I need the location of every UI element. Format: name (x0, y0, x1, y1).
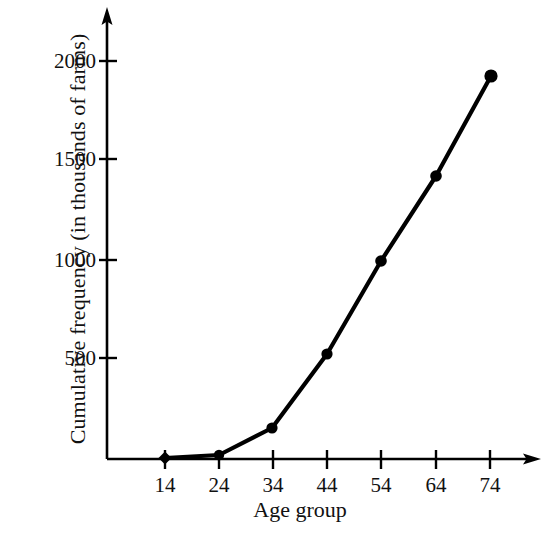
data-line-series-cumulative-frequency (165, 76, 491, 458)
data-point-14 (159, 452, 172, 465)
x-tick-label-24: 24 (194, 473, 244, 498)
y-axis-title: Cumulative frequency (in thousands of fa… (65, 9, 91, 469)
x-tick-label-64: 64 (411, 473, 461, 498)
data-point-64 (430, 170, 442, 182)
x-axis-title: Age group (150, 497, 450, 523)
x-tick-label-14: 14 (140, 473, 190, 498)
data-point-44 (321, 348, 332, 359)
x-tick-label-34: 34 (248, 473, 298, 498)
data-point-24 (214, 450, 224, 460)
x-tick-label-44: 44 (302, 473, 352, 498)
chart-figure: 2000 1500 1000 500 14 24 34 44 54 64 74 … (0, 0, 544, 535)
y-axis (102, 7, 113, 459)
data-point-54 (375, 255, 387, 267)
data-points (159, 69, 498, 464)
data-point-74 (484, 69, 497, 82)
data-point-34 (266, 422, 277, 433)
x-tick-label-74: 74 (465, 473, 515, 498)
x-tick-label-54: 54 (356, 473, 406, 498)
